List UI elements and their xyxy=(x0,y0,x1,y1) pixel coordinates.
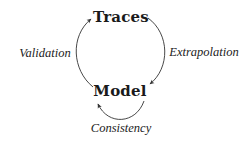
edge-consistency-loop-arrow xyxy=(98,101,144,119)
node-traces: Traces xyxy=(93,8,149,26)
node-model: Model xyxy=(93,82,146,100)
edge-validation-arrow xyxy=(76,19,93,87)
edge-label-extrapolation: Extrapolation xyxy=(169,45,238,60)
edge-label-consistency: Consistency xyxy=(91,121,151,136)
diagram-canvas: Traces Model Validation Extrapolation Co… xyxy=(0,0,252,147)
edge-label-validation: Validation xyxy=(19,46,70,61)
edge-extrapolation-arrow xyxy=(148,18,165,84)
